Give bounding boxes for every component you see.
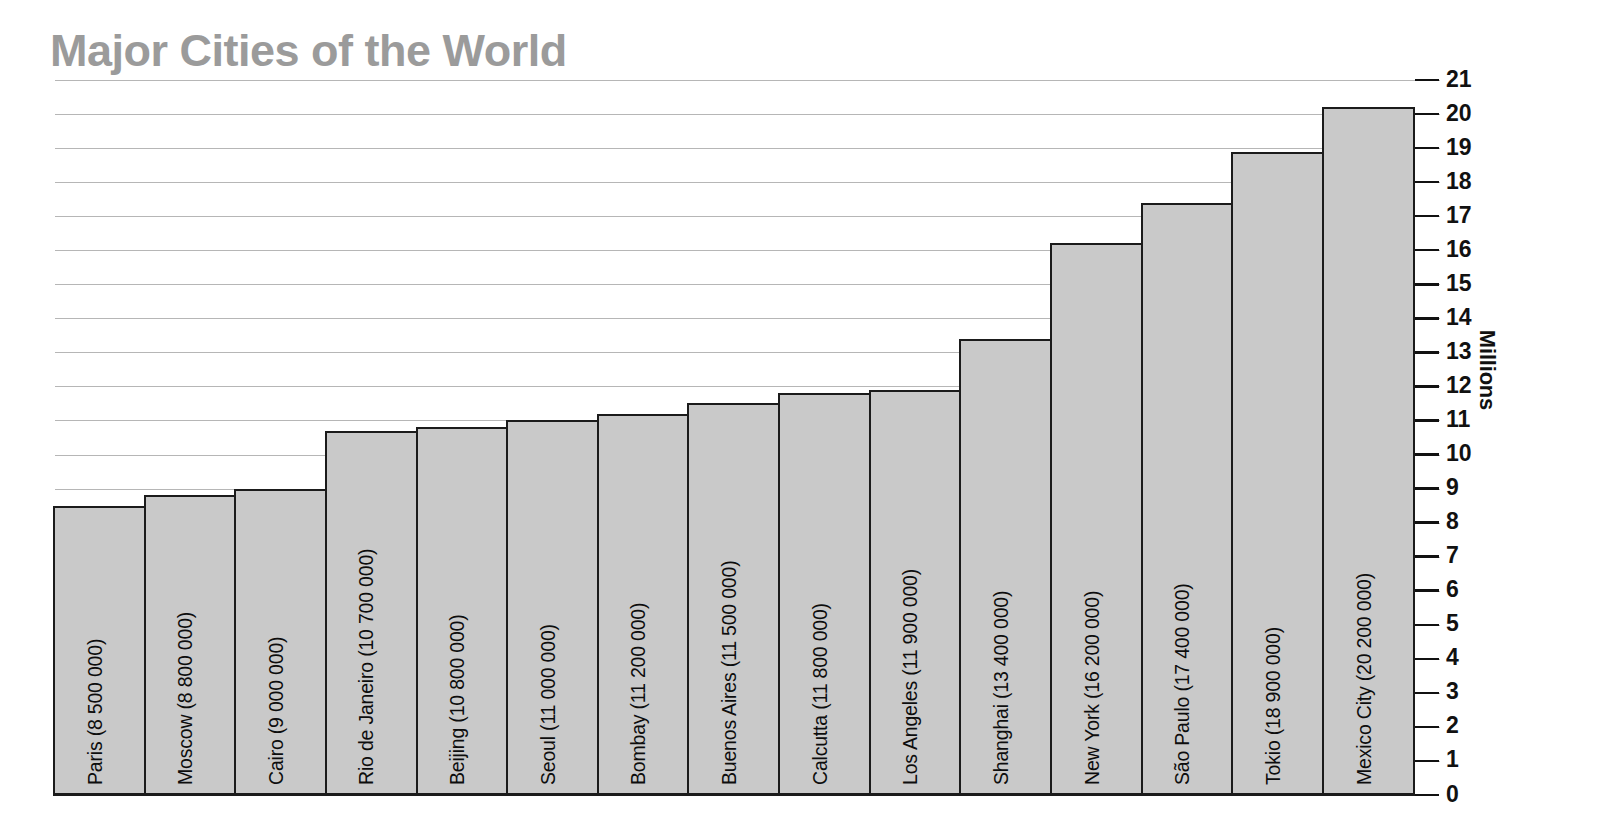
y-axis-title: Millions [1472, 300, 1502, 440]
bar-são-paulo[interactable]: São Paulo (17 400 000) [1141, 203, 1234, 795]
bar-label: Bombay (11 200 000) [627, 603, 650, 785]
y-tick-label: 19 [1446, 136, 1472, 159]
tick-mark-icon [1415, 419, 1439, 422]
tick-mark-icon [1415, 521, 1439, 524]
y-tick-label: 10 [1446, 442, 1472, 465]
chart-page: Major Cities of the World Paris (8 500 0… [0, 0, 1600, 819]
bar-label: Tokio (18 900 000) [1262, 627, 1285, 785]
tick-mark-icon [1415, 794, 1439, 797]
y-tick-label: 2 [1446, 714, 1459, 737]
y-tick-label: 1 [1446, 748, 1459, 771]
bar-label: Cairo (9 000 000) [265, 637, 288, 785]
bar-calcutta[interactable]: Calcutta (11 800 000) [778, 393, 871, 795]
tick-mark-icon [1415, 385, 1439, 388]
y-tick-label: 12 [1446, 374, 1472, 397]
y-tick-label: 11 [1446, 408, 1470, 431]
bar-label: Buenos Aires (11 500 000) [718, 561, 741, 785]
bar-label: São Paulo (17 400 000) [1171, 583, 1194, 785]
y-tick-label: 13 [1446, 340, 1472, 363]
bar-shanghai[interactable]: Shanghai (13 400 000) [959, 339, 1052, 795]
tick-mark-icon [1415, 113, 1439, 116]
bar-label: Beijing (10 800 000) [446, 614, 469, 785]
bar-buenos-aires[interactable]: Buenos Aires (11 500 000) [687, 403, 780, 795]
y-tick-label: 17 [1446, 204, 1472, 227]
bar-label: Moscow (8 800 000) [174, 612, 197, 785]
bar-new-york[interactable]: New York (16 200 000) [1050, 243, 1143, 795]
tick-mark-icon [1415, 624, 1439, 627]
tick-mark-icon [1415, 181, 1439, 184]
y-tick-label: 6 [1446, 578, 1459, 601]
bar-label: Paris (8 500 000) [84, 639, 107, 785]
bar-series: Paris (8 500 000)Moscow (8 800 000)Cairo… [53, 80, 1415, 795]
y-tick-label: 21 [1446, 68, 1472, 91]
tick-mark-icon [1415, 658, 1439, 661]
bar-mexico-city[interactable]: Mexico City (20 200 000) [1322, 107, 1415, 795]
tick-mark-icon [1415, 351, 1439, 354]
y-tick-label: 4 [1446, 646, 1459, 669]
tick-mark-icon [1415, 555, 1439, 558]
page-title: Major Cities of the World [50, 28, 567, 73]
bar-seoul[interactable]: Seoul (11 000 000) [506, 420, 599, 795]
bar-label: Shanghai (13 400 000) [990, 591, 1013, 785]
bar-bombay[interactable]: Bombay (11 200 000) [597, 414, 690, 795]
tick-mark-icon [1415, 589, 1439, 592]
tick-mark-icon [1415, 487, 1439, 490]
tick-mark-icon [1415, 692, 1439, 695]
y-tick-label: 8 [1446, 510, 1459, 533]
y-tick-label: 7 [1446, 544, 1459, 567]
bar-beijing[interactable]: Beijing (10 800 000) [416, 427, 509, 795]
tick-mark-icon [1415, 453, 1439, 456]
y-tick-label: 3 [1446, 680, 1459, 703]
bar-label: Seoul (11 000 000) [537, 624, 560, 785]
bar-paris[interactable]: Paris (8 500 000) [53, 506, 146, 795]
tick-mark-icon [1415, 283, 1439, 286]
y-tick-label: 14 [1446, 306, 1472, 329]
bar-moscow[interactable]: Moscow (8 800 000) [144, 495, 237, 795]
tick-mark-icon [1415, 79, 1439, 82]
y-tick-label: 15 [1446, 272, 1472, 295]
y-tick-label: 18 [1446, 170, 1472, 193]
bar-label: Rio de Janeiro (10 700 000) [355, 549, 378, 785]
tick-mark-icon [1415, 215, 1439, 218]
y-axis-title-label: Millions [1474, 330, 1500, 410]
tick-mark-icon [1415, 317, 1439, 320]
bar-label: Calcutta (11 800 000) [809, 603, 832, 785]
bar-los-angeles[interactable]: Los Angeles (11 900 000) [869, 390, 962, 795]
bar-label: Mexico City (20 200 000) [1353, 573, 1376, 785]
bar-tokio[interactable]: Tokio (18 900 000) [1231, 152, 1324, 796]
y-tick-label: 20 [1446, 102, 1472, 125]
plot-area: Paris (8 500 000)Moscow (8 800 000)Cairo… [53, 80, 1415, 795]
y-tick-label: 9 [1446, 476, 1459, 499]
tick-mark-icon [1415, 760, 1439, 763]
y-tick-label: 16 [1446, 238, 1472, 261]
tick-mark-icon [1415, 249, 1439, 252]
bar-cairo[interactable]: Cairo (9 000 000) [234, 489, 327, 795]
bar-label: New York (16 200 000) [1081, 591, 1104, 785]
x-axis-line [53, 793, 1415, 796]
y-tick-label: 5 [1446, 612, 1459, 635]
tick-mark-icon [1415, 726, 1439, 729]
y-tick-label: 0 [1446, 783, 1459, 806]
tick-mark-icon [1415, 147, 1439, 150]
bar-label: Los Angeles (11 900 000) [899, 569, 922, 785]
bar-rio-de-janeiro[interactable]: Rio de Janeiro (10 700 000) [325, 431, 418, 795]
